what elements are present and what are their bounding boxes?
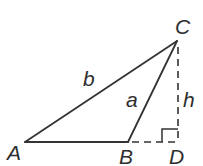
vertex-label-a: A bbox=[5, 141, 21, 164]
triangle-side-ac-b bbox=[25, 41, 177, 142]
side-label-a: a bbox=[126, 88, 138, 111]
right-angle-marker bbox=[162, 129, 178, 142]
vertex-label-b: B bbox=[119, 145, 133, 166]
triangle-diagram-canvas: A B C D b a h bbox=[0, 0, 203, 166]
vertex-label-c: C bbox=[175, 15, 191, 38]
side-label-h: h bbox=[183, 88, 195, 111]
side-label-b: b bbox=[83, 67, 95, 90]
triangle-altitude-figure: A B C D b a h bbox=[0, 0, 203, 166]
vertex-label-d: D bbox=[169, 145, 184, 166]
